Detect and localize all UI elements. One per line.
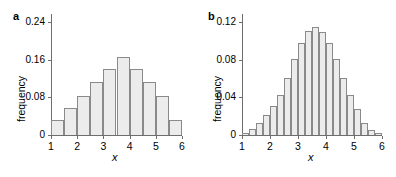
histogram-bar	[256, 123, 263, 135]
panel-a-y-tick-label: 0.08	[11, 92, 45, 102]
panel-b-x-tick	[298, 136, 299, 139]
panel-b-x-axis	[242, 135, 382, 136]
panel-b-x-tick	[326, 136, 327, 139]
histogram-bar	[130, 69, 143, 135]
panel-a: a frequency 00.080.160.24123456 x	[0, 0, 198, 177]
histogram-bar	[333, 59, 340, 135]
histogram-bar	[143, 82, 156, 135]
panel-b-x-axis-label: x	[308, 152, 314, 163]
panel-b-x-tick	[242, 136, 243, 139]
histogram-bar	[169, 120, 182, 135]
panel-b-x-tick-label: 4	[316, 141, 336, 152]
panel-b-y-tick-label: 0.04	[202, 92, 236, 102]
panel-a-plot-area: 00.080.160.24123456	[51, 22, 182, 135]
histogram-bar	[242, 133, 249, 135]
panel-b-plot-area: 00.040.080.12123456	[242, 22, 382, 135]
panel-a-x-tick	[156, 136, 157, 139]
panel-a-x-tick-label: 1	[41, 141, 61, 152]
histogram-bar	[277, 95, 284, 135]
histogram-bar	[361, 123, 368, 135]
panel-b-x-tick-label: 5	[344, 141, 364, 152]
panel-b-x-tick-label: 2	[260, 141, 280, 152]
panel-b-bars	[242, 22, 382, 135]
histogram-bar	[305, 31, 312, 135]
panel-a-x-tick-label: 5	[146, 141, 166, 152]
panel-b-y-tick-label: 0.12	[202, 17, 236, 27]
panel-a-x-axis-label: x	[112, 152, 118, 163]
histogram-bar	[90, 82, 103, 135]
panel-a-x-tick	[130, 136, 131, 139]
panel-a-x-tick	[51, 136, 52, 139]
panel-b-x-tick	[382, 136, 383, 139]
panel-b-x-tick-label: 6	[372, 141, 392, 152]
histogram-bar	[77, 96, 90, 135]
histogram-bar	[64, 108, 77, 135]
panel-a-y-tick-label: 0	[11, 130, 45, 140]
histogram-bar	[284, 78, 291, 135]
panel-b-x-tick	[270, 136, 271, 139]
panel-b-x-tick-label: 1	[232, 141, 252, 152]
histogram-bar	[117, 57, 130, 135]
panel-a-x-tick	[103, 136, 104, 139]
panel-a-x-tick-label: 3	[93, 141, 113, 152]
panel-a-bars	[51, 22, 182, 135]
panel-a-x-axis	[51, 135, 182, 136]
histogram-bar	[347, 95, 354, 135]
panel-a-x-tick-label: 2	[67, 141, 87, 152]
panel-a-x-tick	[77, 136, 78, 139]
histogram-bar	[263, 115, 270, 135]
histogram-bar	[270, 106, 277, 135]
histogram-bar	[156, 96, 169, 135]
panel-a-x-tick-label: 4	[120, 141, 140, 152]
panel-b-x-tick-label: 3	[288, 141, 308, 152]
panel-b-y-tick-label: 0	[202, 130, 236, 140]
histogram-bar	[312, 27, 319, 135]
figure-histogram-pair: a frequency 00.080.160.24123456 x b freq…	[0, 0, 396, 177]
panel-a-x-tick	[182, 136, 183, 139]
panel-a-y-tick-label: 0.24	[11, 17, 45, 27]
panel-b: b frequency 00.040.080.12123456 x	[198, 0, 396, 177]
histogram-bar	[298, 43, 305, 135]
histogram-bar	[340, 78, 347, 135]
panel-a-y-tick-label: 0.16	[11, 55, 45, 65]
histogram-bar	[368, 130, 375, 135]
histogram-bar	[103, 69, 116, 135]
panel-b-y-tick-label: 0.08	[202, 55, 236, 65]
histogram-bar	[319, 32, 326, 135]
panel-b-x-tick	[354, 136, 355, 139]
histogram-bar	[326, 43, 333, 135]
panel-a-x-tick-label: 6	[172, 141, 192, 152]
histogram-bar	[354, 109, 361, 135]
histogram-bar	[291, 59, 298, 135]
histogram-bar	[249, 129, 256, 135]
histogram-bar	[51, 120, 64, 135]
histogram-bar	[375, 133, 382, 135]
